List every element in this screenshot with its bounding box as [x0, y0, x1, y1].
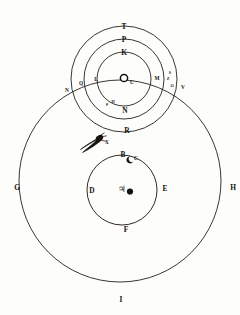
central-body-dot	[127, 188, 133, 194]
label-mark-z: Z	[167, 76, 170, 81]
label-great-i: I	[120, 295, 123, 304]
label-lower-d: D	[89, 186, 94, 195]
label-lower-f: F	[124, 225, 129, 234]
label-great-h: H	[230, 183, 236, 192]
label-center-c: C	[130, 79, 134, 85]
label-ring-k: K	[121, 48, 127, 57]
astronomical-diagram: T P K N R C L Q N M V ρ H S Z O G H I B …	[0, 0, 240, 315]
label-left-far-n: N	[65, 87, 69, 93]
label-left-outer-q: Q	[79, 80, 83, 86]
crescent-icon	[127, 156, 134, 163]
label-lower-b: B	[121, 150, 126, 159]
label-comet-x: X	[105, 139, 109, 145]
label-right-inner-m: M	[155, 75, 160, 81]
label-lower-e: E	[163, 184, 168, 193]
label-mark-o: O	[170, 83, 173, 88]
label-mark-h: H	[111, 99, 115, 104]
label-right-outer-v: V	[181, 84, 185, 90]
comet-glyph	[81, 133, 107, 153]
label-lower-c: C	[134, 155, 138, 161]
diagram-canvas: T P K N R C L Q N M V ρ H S Z O G H I B …	[0, 0, 240, 315]
label-great-g: G	[14, 183, 20, 192]
sun-ring-icon	[120, 74, 127, 81]
label-ring-t: T	[122, 22, 127, 31]
label-mark-rho: ρ	[106, 101, 109, 106]
label-ring-p: P	[122, 35, 127, 44]
label-ring-n: N	[122, 106, 128, 115]
great-circle	[19, 80, 221, 282]
label-mark-s: S	[169, 70, 172, 75]
label-ring-r: R	[124, 126, 130, 135]
jupiter-symbol-icon: ♃	[118, 184, 126, 194]
label-left-inner-l: L	[94, 76, 98, 82]
